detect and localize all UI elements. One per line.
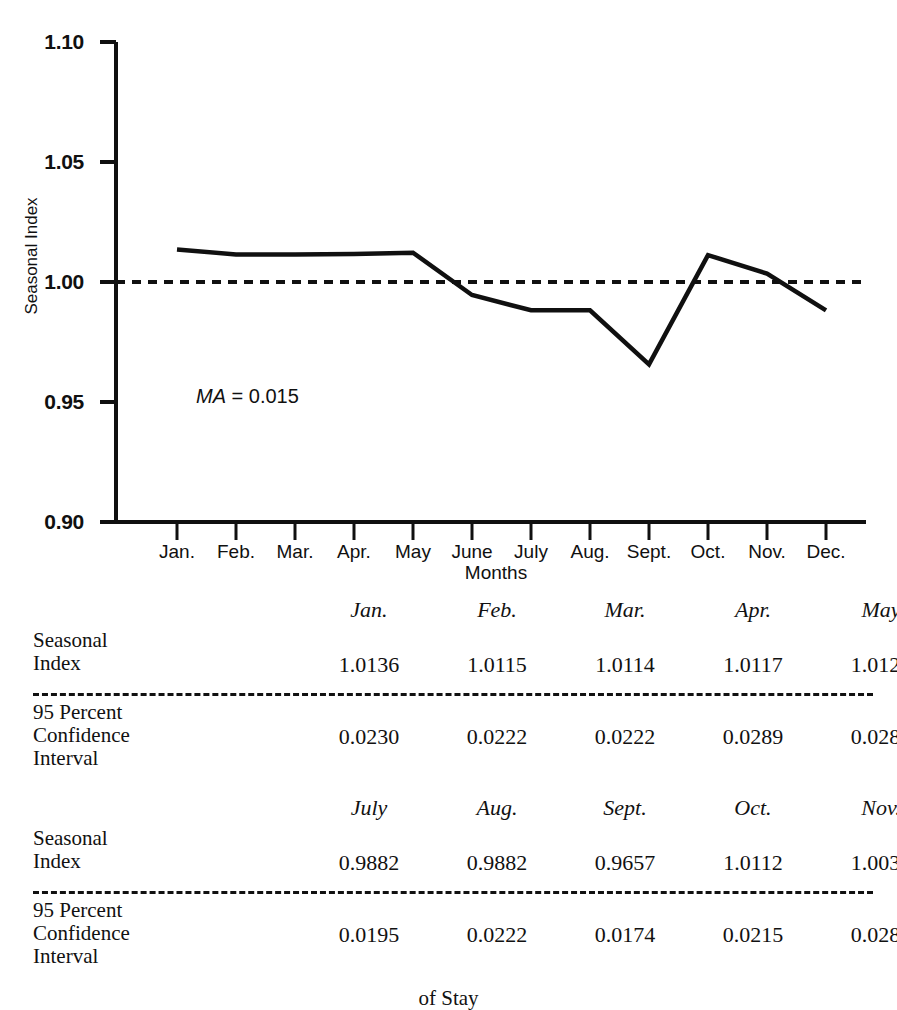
- ytick-label-0-90: 0.90: [12, 510, 84, 534]
- xtick-label-dec: Dec.: [786, 541, 866, 563]
- table2-cell-ci-sept: 0.0174: [566, 922, 684, 948]
- table1-ci-label-line-2: Confidence: [33, 724, 130, 747]
- table2-cell-seasonal-july: 0.9882: [310, 850, 428, 876]
- figure-caption: of Stay: [0, 986, 897, 1010]
- table2-dashed-separator: [33, 891, 873, 894]
- table2-header-oct: Oct.: [694, 795, 812, 821]
- table2-row-label-line-1: Seasonal: [33, 827, 108, 850]
- ma-annotation: MA = 0.015: [196, 385, 299, 408]
- table2-cell-ci-july: 0.0195: [310, 922, 428, 948]
- table1-cell-ci-jan: 0.0230: [310, 724, 428, 750]
- table1-header-mar: Mar.: [566, 597, 684, 623]
- table2-cell-seasonal-oct: 1.0112: [694, 850, 812, 876]
- table2-ci-label-line-3: Interval: [33, 945, 130, 968]
- table1-cell-seasonal-apr: 1.0117: [694, 652, 812, 678]
- table1-cell-seasonal-jan: 1.0136: [310, 652, 428, 678]
- table2-header-july: July: [310, 795, 428, 821]
- seasonal-index-series: [177, 249, 826, 364]
- table1-dashed-separator: [33, 693, 873, 696]
- table2-cell-seasonal-aug: 0.9882: [438, 850, 556, 876]
- ytick-label-1-10: 1.10: [12, 30, 84, 54]
- ma-value: = 0.015: [226, 385, 299, 407]
- table2-cell-ci-oct: 0.0215: [694, 922, 812, 948]
- table2-ci-label-line-2: Confidence: [33, 922, 130, 945]
- table1-cell-seasonal-feb: 1.0115: [438, 652, 556, 678]
- x-axis-ticks: [177, 522, 826, 540]
- table2-header-aug: Aug.: [438, 795, 556, 821]
- table1-cell-seasonal-mar: 1.0114: [566, 652, 684, 678]
- seasonal-index-chart: 1.10 1.05 1.00 0.95 0.90 Jan. Feb. Mar. …: [0, 0, 897, 595]
- table1-row-label-confidence-interval: 95 Percent Confidence Interval: [33, 701, 130, 770]
- y-axis-ticks: [100, 42, 116, 522]
- table1-header-feb: Feb.: [438, 597, 556, 623]
- x-axis-title: Months: [396, 562, 596, 584]
- table1-header-may: May: [822, 597, 897, 623]
- table2-row-label-confidence-interval: 95 Percent Confidence Interval: [33, 899, 130, 968]
- table1-cell-seasonal-may: 1.0122: [822, 652, 897, 678]
- table1-header-apr: Apr.: [694, 597, 812, 623]
- table1-cell-ci-apr: 0.0289: [694, 724, 812, 750]
- table2-cell-seasonal-nov: 1.0035: [822, 850, 897, 876]
- table2-cell-ci-aug: 0.0222: [438, 922, 556, 948]
- chart-canvas: [0, 0, 897, 595]
- table1-row-label-seasonal-index: Seasonal Index: [33, 629, 108, 675]
- table2-header-sept: Sept.: [566, 795, 684, 821]
- ytick-label-0-95: 0.95: [12, 390, 84, 414]
- table1-ci-label-line-1: 95 Percent: [33, 701, 130, 724]
- table1-header-jan: Jan.: [310, 597, 428, 623]
- table1-row-label-line-2: Index: [33, 652, 108, 675]
- ytick-label-1-05: 1.05: [12, 150, 84, 174]
- table1-cell-ci-may: 0.0283: [822, 724, 897, 750]
- table2-row-label-line-2: Index: [33, 850, 108, 873]
- table1-ci-label-line-3: Interval: [33, 747, 130, 770]
- ma-symbol: MA: [196, 385, 226, 407]
- table1-row-label-line-1: Seasonal: [33, 629, 108, 652]
- table2-cell-ci-nov: 0.0289: [822, 922, 897, 948]
- table2-row-label-seasonal-index: Seasonal Index: [33, 827, 108, 873]
- table2-header-nov: Nov.: [822, 795, 897, 821]
- table2-cell-seasonal-sept: 0.9657: [566, 850, 684, 876]
- table2-ci-label-line-1: 95 Percent: [33, 899, 130, 922]
- table1-cell-ci-feb: 0.0222: [438, 724, 556, 750]
- y-axis-title: Seasonal Index: [22, 186, 42, 326]
- table1-cell-ci-mar: 0.0222: [566, 724, 684, 750]
